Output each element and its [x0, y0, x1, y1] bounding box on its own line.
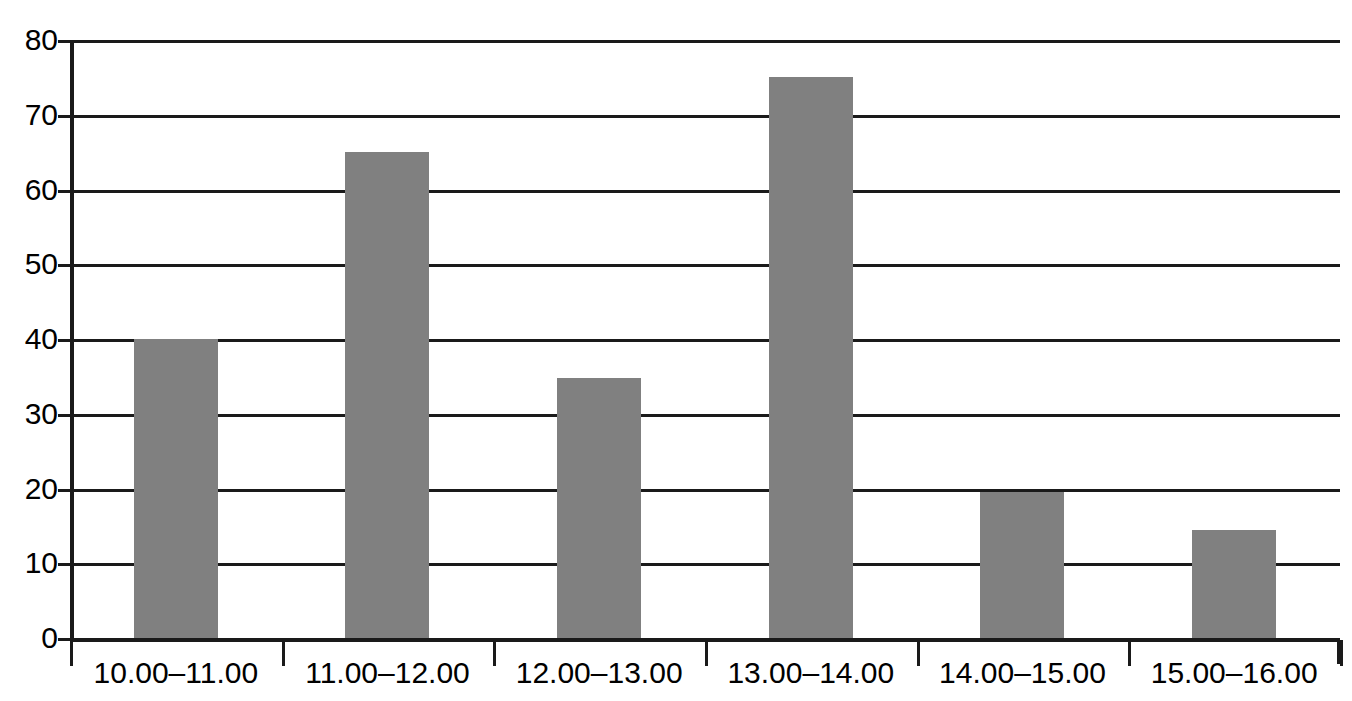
bar-slot: [493, 40, 705, 638]
x-axis-tick-mark: [917, 640, 920, 666]
y-axis-tick-label: 60: [25, 175, 58, 205]
bar[interactable]: [345, 152, 429, 638]
x-axis-tick-label: 15.00–16.00: [1151, 658, 1318, 688]
bar[interactable]: [557, 378, 641, 638]
y-axis-tick-label: 20: [25, 474, 58, 504]
y-axis-tick-label: 10: [25, 548, 58, 578]
bar-slot: [705, 40, 917, 638]
x-axis-tick-mark: [70, 640, 73, 666]
y-axis-tick-label: 50: [25, 249, 58, 279]
x-axis-end-tick: [1337, 638, 1340, 664]
bar-slot: [282, 40, 494, 638]
x-axis-tick-label: 12.00–13.00: [516, 658, 683, 688]
bar[interactable]: [1192, 530, 1276, 638]
bar[interactable]: [980, 492, 1064, 638]
x-axis-tick-mark: [1128, 640, 1131, 666]
bar-chart: 80 70 60 50 40 30 20 10 0 10.00–11.0011.…: [0, 0, 1352, 701]
x-axis-tick-mark: [493, 640, 496, 666]
x-axis-tick-label: 10.00–11.00: [94, 658, 259, 688]
y-axis-tick-label: 80: [25, 25, 58, 55]
y-axis-tick-label: 40: [25, 324, 58, 354]
x-axis-tick-mark: [1340, 640, 1343, 666]
x-axis-tick-mark: [705, 640, 708, 666]
bar-slot: [1128, 40, 1340, 638]
bar[interactable]: [769, 77, 853, 638]
y-axis-tick-label: 70: [25, 100, 58, 130]
plot-area: [70, 40, 1340, 638]
y-axis-tick-label: 30: [25, 399, 58, 429]
bar[interactable]: [134, 339, 218, 638]
x-axis-tick-label: 11.00–12.00: [305, 658, 470, 688]
bar-slot: [70, 40, 282, 638]
x-axis-tick-label: 14.00–15.00: [939, 658, 1106, 688]
y-axis-labels: 80 70 60 50 40 30 20 10 0: [0, 0, 58, 701]
x-axis-tick-mark: [282, 640, 285, 666]
y-axis-tick-label: 0: [41, 623, 58, 653]
bar-slot: [917, 40, 1129, 638]
x-axis-tick-label: 13.00–14.00: [727, 658, 894, 688]
